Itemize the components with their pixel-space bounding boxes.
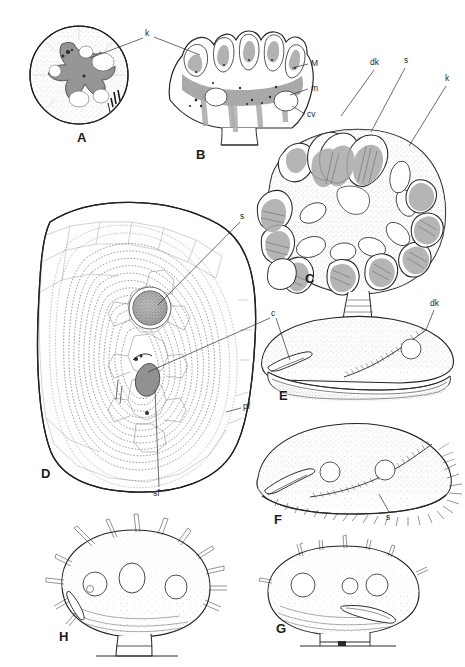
- label-cv-figure-b: cv: [307, 110, 316, 119]
- figure-letter-c: C: [305, 272, 314, 285]
- label-k-figure-c: k: [445, 74, 449, 83]
- label-m-figure-b: m: [311, 84, 318, 93]
- label-s-figure-c: s: [404, 56, 408, 65]
- figure-letter-b: B: [196, 148, 205, 161]
- figure-f-artwork: [257, 424, 462, 526]
- plate-artwork: [0, 0, 465, 667]
- label-k-figure-a: k: [145, 29, 149, 38]
- label-s-figure-f: s: [386, 513, 390, 522]
- figure-a-artwork: [30, 26, 128, 124]
- illustration-plate: A B C D E F G H k M m cv dk s k s c pf s…: [0, 0, 465, 667]
- figure-d-artwork: [38, 202, 256, 492]
- figure-letter-e: E: [279, 389, 288, 402]
- label-dk-figure-c: dk: [370, 58, 379, 67]
- figure-h-artwork: [46, 514, 227, 656]
- figure-b-artwork: [169, 31, 313, 145]
- figure-letter-h: H: [59, 630, 68, 643]
- label-pf-figure-d: pf: [243, 402, 250, 411]
- figure-letter-d: D: [41, 467, 50, 480]
- label-s-figure-d: s: [240, 212, 244, 221]
- figure-letter-g: G: [276, 622, 286, 635]
- figure-c-artwork: [257, 129, 445, 328]
- figure-e-artwork: [262, 316, 454, 401]
- figure-letter-f: F: [274, 513, 282, 526]
- label-sf-figure-d: sf: [153, 489, 160, 498]
- label-M-figure-b: M: [311, 59, 318, 68]
- figure-letter-a: A: [77, 131, 86, 144]
- label-dk-figure-e: dk: [430, 299, 439, 308]
- label-c-figure-d-e: c: [271, 309, 275, 318]
